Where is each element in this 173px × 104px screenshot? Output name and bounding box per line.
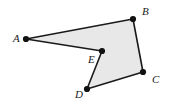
vertex-label-c: C [152,74,159,85]
vertex-dot-a [23,36,29,42]
polygon-abcde-shape [26,19,143,89]
vertex-dot-d [84,86,90,92]
vertex-dot-e [99,48,105,54]
geometry-figure: ABCDE [0,0,173,104]
vertex-label-e: E [88,54,95,65]
vertex-label-d: D [75,89,83,100]
vertex-dot-c [140,69,146,75]
vertex-dot-b [130,16,136,22]
vertex-label-b: B [142,6,149,17]
vertex-label-a: A [13,33,20,44]
